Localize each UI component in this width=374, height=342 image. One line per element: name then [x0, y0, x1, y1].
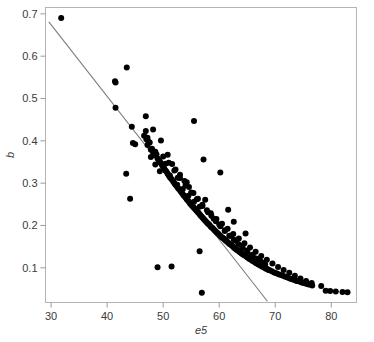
- data-point: [264, 257, 270, 263]
- data-point: [333, 289, 339, 295]
- data-point: [231, 219, 237, 225]
- y-tick-label: 0.7: [22, 8, 37, 20]
- plot-frame: [46, 8, 357, 303]
- data-point: [318, 283, 324, 289]
- data-point: [157, 168, 163, 174]
- data-point: [143, 128, 149, 134]
- x-tick-label: 40: [101, 310, 113, 322]
- y-axis-ticks: 0.10.20.30.40.50.60.7: [22, 8, 45, 274]
- data-point: [208, 210, 214, 216]
- plot-frame-rect: [46, 8, 357, 303]
- data-point: [213, 216, 219, 222]
- data-point: [132, 141, 138, 147]
- data-point: [129, 124, 135, 130]
- data-point: [113, 105, 119, 111]
- data-point: [191, 199, 197, 205]
- data-point: [247, 244, 253, 250]
- data-point: [225, 226, 231, 232]
- data-point: [123, 171, 129, 177]
- data-point: [197, 204, 203, 210]
- data-points-group: [58, 15, 350, 296]
- data-point: [155, 264, 161, 270]
- data-point: [241, 240, 247, 246]
- data-point: [167, 173, 173, 179]
- data-point: [143, 113, 149, 119]
- data-point: [148, 154, 154, 160]
- data-point: [174, 182, 180, 188]
- data-point: [201, 156, 207, 162]
- y-axis-title: b: [4, 152, 16, 158]
- data-point: [258, 253, 264, 259]
- data-point: [303, 278, 309, 284]
- data-point: [150, 126, 156, 132]
- x-tick-label: 50: [157, 310, 169, 322]
- x-tick-label: 70: [269, 310, 281, 322]
- data-point: [127, 196, 133, 202]
- x-axis-title: e5: [195, 324, 208, 336]
- data-point: [217, 170, 223, 176]
- data-point: [297, 275, 303, 281]
- data-point: [169, 264, 175, 270]
- y-tick-label: 0.6: [22, 50, 37, 62]
- data-point: [158, 137, 164, 143]
- y-tick-label: 0.5: [22, 92, 37, 104]
- chart-canvas: 304050607080 0.10.20.30.40.50.60.7 e5 b: [0, 0, 374, 342]
- x-tick-label: 80: [325, 310, 337, 322]
- data-point: [180, 186, 186, 192]
- x-tick-label: 60: [213, 310, 225, 322]
- data-point: [152, 162, 158, 168]
- data-point: [253, 249, 259, 255]
- data-point: [292, 273, 298, 279]
- data-point: [113, 79, 119, 85]
- x-axis-ticks: 304050607080: [45, 303, 337, 322]
- data-point: [225, 207, 231, 213]
- scatter-plot-figure: 304050607080 0.10.20.30.40.50.60.7 e5 b: [0, 0, 374, 342]
- data-point: [275, 264, 281, 270]
- data-point: [243, 231, 249, 237]
- data-point: [327, 288, 333, 294]
- data-point: [160, 153, 166, 159]
- data-point: [281, 267, 287, 273]
- data-point: [177, 175, 183, 181]
- data-point: [199, 290, 205, 296]
- data-point: [171, 167, 177, 173]
- data-point: [144, 142, 150, 148]
- data-point: [309, 280, 315, 286]
- data-point: [191, 118, 197, 124]
- data-point: [58, 15, 64, 21]
- y-tick-label: 0.2: [22, 219, 37, 231]
- data-point: [345, 289, 351, 295]
- data-point: [202, 197, 208, 203]
- y-tick-label: 0.4: [22, 135, 37, 147]
- data-point: [124, 65, 130, 71]
- data-point: [197, 248, 203, 254]
- data-point: [286, 270, 292, 276]
- y-tick-label: 0.1: [22, 262, 37, 274]
- data-point: [219, 221, 225, 227]
- data-point: [236, 236, 242, 242]
- data-point: [230, 231, 236, 237]
- x-tick-label: 30: [45, 310, 57, 322]
- data-point: [269, 261, 275, 267]
- y-tick-label: 0.3: [22, 177, 37, 189]
- data-point: [185, 193, 191, 199]
- data-point: [166, 160, 172, 166]
